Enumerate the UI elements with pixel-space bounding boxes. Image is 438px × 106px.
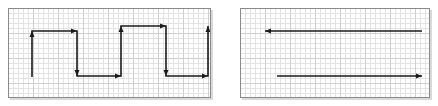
zigzag-path-arrowhead-down: [164, 70, 169, 76]
zigzag-path-arrowhead-down: [75, 70, 80, 76]
right-panel-shadow: [242, 98, 432, 100]
left-panel-paths: [9, 9, 210, 97]
bottom-right-arrow-arrowhead-right: [416, 74, 422, 79]
top-left-arrow-arrowhead-left: [265, 29, 271, 34]
zigzag-path-arrowhead-right: [71, 29, 77, 34]
zigzag-path-arrowhead-up: [206, 26, 211, 32]
left-panel-shadow-right: [211, 10, 213, 100]
zigzag-path-arrowhead-up: [119, 26, 124, 32]
right-panel-paths: [241, 9, 429, 97]
zigzag-path-arrowhead-right: [160, 24, 166, 29]
zigzag-path-arrowhead-right: [115, 74, 121, 79]
diagram-canvas: [0, 0, 438, 106]
left-panel: [8, 8, 211, 98]
zigzag-path: [32, 26, 208, 77]
right-panel: [240, 8, 430, 98]
left-panel-shadow: [10, 98, 213, 100]
right-panel-shadow-right: [430, 10, 432, 100]
zigzag-path-arrowhead-up: [30, 31, 35, 37]
zigzag-path-arrowhead-right: [202, 74, 208, 79]
